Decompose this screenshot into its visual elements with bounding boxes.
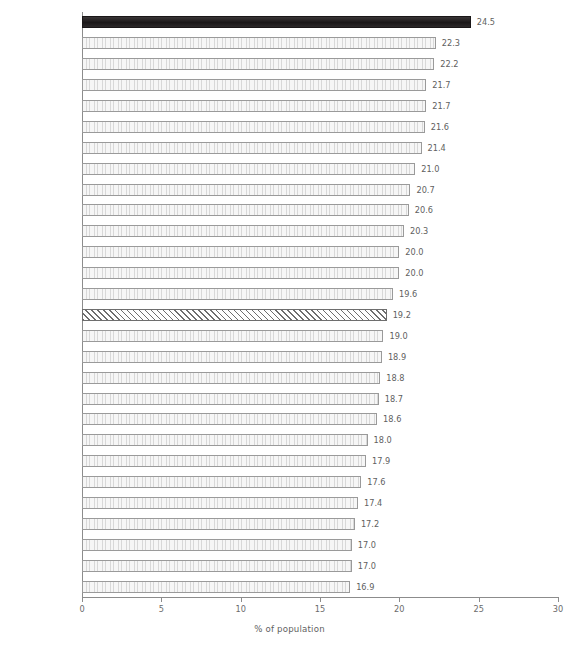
bar-value-label: 20.0 xyxy=(399,268,423,278)
bar-row: Italy17.0 xyxy=(82,534,558,555)
bar-row: Bulgaria16.9 xyxy=(82,576,558,597)
bar xyxy=(82,142,422,154)
bar xyxy=(82,497,358,509)
bar-value-label: 16.9 xyxy=(350,582,374,592)
bar-row: Spain17.6 xyxy=(82,472,558,493)
bar xyxy=(82,184,410,196)
bar-row: Cyprus21.7 xyxy=(82,96,558,117)
bar xyxy=(82,58,434,70)
bar xyxy=(82,16,471,28)
bar-row: Denmark22.2 xyxy=(82,54,558,75)
bar xyxy=(82,434,368,446)
bar-value-label: 21.4 xyxy=(422,143,446,153)
bar xyxy=(82,37,436,49)
bar-value-label: 20.3 xyxy=(404,226,428,236)
x-axis-tick xyxy=(241,597,242,602)
bar-row: Estonia18.8 xyxy=(82,367,558,388)
bar xyxy=(82,539,352,551)
bar xyxy=(82,413,377,425)
bar xyxy=(82,372,380,384)
bar xyxy=(82,225,404,237)
bar-value-label: 20.0 xyxy=(399,247,423,257)
bar-value-label: 21.7 xyxy=(426,80,450,90)
x-axis-tick xyxy=(82,597,83,602)
bar xyxy=(82,288,393,300)
bar-value-label: 18.6 xyxy=(377,414,401,424)
bar-value-label: 18.8 xyxy=(380,373,404,383)
x-axis-tick-label: 25 xyxy=(473,604,483,614)
bar xyxy=(82,309,387,321)
bar xyxy=(82,246,399,258)
bar-value-label: 22.3 xyxy=(436,38,460,48)
bar-row: Sweden21.0 xyxy=(82,158,558,179)
bar-value-label: 21.7 xyxy=(426,101,450,111)
bar-value-label: 24.5 xyxy=(471,17,495,27)
bar xyxy=(82,351,382,363)
bar-value-label: 21.0 xyxy=(415,164,439,174)
x-axis-title: % of population xyxy=(0,624,579,634)
plot-area: Ireland24.5France22.3Denmark22.2Luxembou… xyxy=(82,12,558,597)
bar xyxy=(82,267,399,279)
bar xyxy=(82,476,361,488)
bar-row: Lithuania20.0 xyxy=(82,242,558,263)
bar xyxy=(82,163,415,175)
x-axis-tick-label: 30 xyxy=(553,604,563,614)
bar xyxy=(82,330,383,342)
x-axis-tick-label: 0 xyxy=(79,604,84,614)
x-axis-tick-label: 5 xyxy=(159,604,164,614)
bar-row: Ireland24.5 xyxy=(82,12,558,33)
bar xyxy=(82,560,352,572)
bar-value-label: 20.6 xyxy=(409,205,433,215)
bar-value-label: 18.7 xyxy=(379,394,403,404)
bar xyxy=(82,100,426,112)
bar-value-label: 19.6 xyxy=(393,289,417,299)
bar-row: Germany17.0 xyxy=(82,555,558,576)
bar-row: Poland19.6 xyxy=(82,284,558,305)
bar-row: Finland20.7 xyxy=(82,179,558,200)
bar-row: Luxembourg21.7 xyxy=(82,75,558,96)
bar-value-label: 22.2 xyxy=(434,59,458,69)
bar-row: Hungary18.7 xyxy=(82,388,558,409)
bar-value-label: 17.6 xyxy=(361,477,385,487)
bar-value-label: 19.2 xyxy=(387,310,411,320)
x-axis-tick-label: 20 xyxy=(394,604,404,614)
bar-value-label: 17.0 xyxy=(352,561,376,571)
bar-chart: Ireland24.5France22.3Denmark22.2Luxembou… xyxy=(0,0,579,647)
x-axis-tick xyxy=(161,597,162,602)
bar-row: United Kingdom21.4 xyxy=(82,137,558,158)
bar xyxy=(82,121,425,133)
bar-value-label: 20.7 xyxy=(410,185,434,195)
bar-row: Austria19.0 xyxy=(82,325,558,346)
bar-row: Slovakia20.0 xyxy=(82,263,558,284)
bar-value-label: 17.2 xyxy=(355,519,379,529)
bar-row: Belgium20.6 xyxy=(82,200,558,221)
x-axis-tick-label: 10 xyxy=(235,604,245,614)
bar-row: Netherlands21.6 xyxy=(82,116,558,137)
bar xyxy=(82,204,409,216)
bar-row: Romania18.9 xyxy=(82,346,558,367)
bar xyxy=(82,393,379,405)
bar-value-label: 18.9 xyxy=(382,352,406,362)
bar xyxy=(82,518,355,530)
bar xyxy=(82,79,426,91)
x-axis-tick xyxy=(558,597,559,602)
bar-value-label: 17.4 xyxy=(358,498,382,508)
bar-value-label: 21.6 xyxy=(425,122,449,132)
bar-value-label: 19.0 xyxy=(383,331,407,341)
bar-value-label: 17.9 xyxy=(366,456,390,466)
bar xyxy=(82,581,350,593)
bar-row: Latvia18.0 xyxy=(82,430,558,451)
x-axis-tick-label: 15 xyxy=(315,604,325,614)
bar-row: Slovenia17.2 xyxy=(82,513,558,534)
bar-row: Greece17.4 xyxy=(82,493,558,514)
x-axis-tick xyxy=(320,597,321,602)
x-axis-tick xyxy=(479,597,480,602)
bar-row: France22.3 xyxy=(82,33,558,54)
bar-row: Portugal18.6 xyxy=(82,409,558,430)
bar-row: Czech Republic17.9 xyxy=(82,451,558,472)
x-axis-tick xyxy=(399,597,400,602)
bar-value-label: 18.0 xyxy=(368,435,392,445)
bar-row: EU-2719.2 xyxy=(82,305,558,326)
bar xyxy=(82,455,366,467)
bar-row: Malta20.3 xyxy=(82,221,558,242)
